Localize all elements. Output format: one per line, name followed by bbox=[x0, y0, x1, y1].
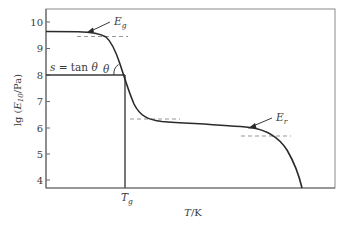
eg-annotation: Eg bbox=[86, 15, 127, 33]
ytick-9: 9 bbox=[37, 43, 43, 54]
modulus-temperature-diagram: 10 9 8 7 6 5 4 lg (E10/Pa) T/K Tg bbox=[0, 0, 348, 229]
slope-label: s = tan θ bbox=[50, 61, 98, 73]
ytick-5: 5 bbox=[37, 149, 43, 160]
ytick-10: 10 bbox=[30, 17, 43, 28]
y-tick-labels: 10 9 8 7 6 5 4 bbox=[30, 17, 43, 186]
x-axis-label: T/K bbox=[184, 207, 202, 218]
eg-arrowhead-icon bbox=[86, 28, 94, 34]
svg-text:Eg: Eg bbox=[113, 15, 127, 30]
ytick-4: 4 bbox=[37, 175, 43, 186]
svg-text:Er: Er bbox=[275, 111, 288, 126]
plot-frame bbox=[46, 9, 335, 188]
er-arrowhead-icon bbox=[248, 123, 257, 129]
theta-label: θ bbox=[103, 63, 110, 75]
ytick-7: 7 bbox=[37, 96, 43, 107]
er-annotation: Er bbox=[248, 111, 288, 129]
ytick-8: 8 bbox=[37, 70, 43, 81]
tg-label: Tg bbox=[121, 191, 133, 206]
y-axis-label: lg (E10/Pa) bbox=[12, 74, 25, 127]
ytick-6: 6 bbox=[37, 123, 43, 134]
theta-arc bbox=[114, 65, 119, 76]
modulus-curve bbox=[46, 32, 302, 189]
